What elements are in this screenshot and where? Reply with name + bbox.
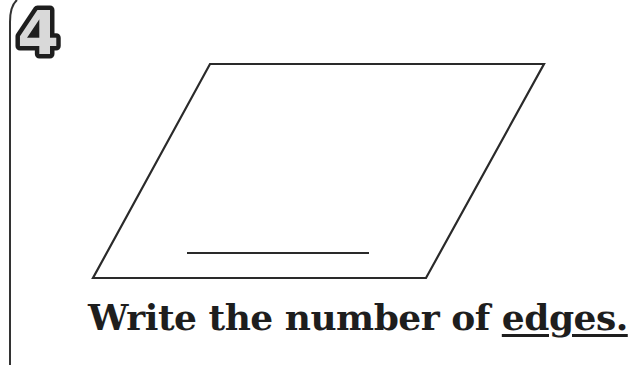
prompt-text: Write the number of	[88, 296, 502, 338]
question-prompt: Write the number of edges.	[88, 296, 628, 338]
parallelogram-shape	[93, 64, 544, 278]
prompt-keyword: edges.	[502, 296, 628, 338]
